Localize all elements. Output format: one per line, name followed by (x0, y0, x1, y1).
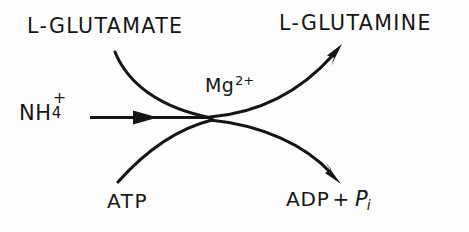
adp-text: ADP (286, 187, 330, 211)
adp-pi-product-arrowhead (325, 162, 341, 184)
magnesium-charge: 2+ (235, 73, 254, 88)
atp-substrate-curve (118, 120, 212, 182)
adp-pi-product-curve (210, 120, 331, 173)
cofactor-label-magnesium: Mg2+ (205, 74, 254, 95)
glutamine-product-arrowhead (327, 44, 342, 66)
product-label-glutamine: L-GLUTAMINE (279, 13, 432, 34)
substrate-label-ammonium: NH+4 (19, 99, 64, 124)
product-label-adp-phosphate: ADP+Pi (286, 189, 371, 212)
magnesium-element: Mg (205, 74, 234, 96)
nh4-reaction-arrowhead (133, 111, 158, 125)
adp-plus-sign: + (333, 187, 351, 211)
glutamate-substrate-curve (115, 52, 212, 118)
ammonium-charge-stack: +4 (52, 99, 64, 120)
inorganic-phosphate-subscript: i (367, 197, 372, 213)
inorganic-phosphate-symbol: P (355, 187, 368, 211)
reaction-diagram: L-GLUTAMATE L-GLUTAMINE NH+4 Mg2+ ATP AD… (0, 0, 469, 232)
substrate-label-atp: ATP (107, 191, 148, 211)
ammonium-subscript: 4 (52, 106, 62, 121)
substrate-label-glutamate: L-GLUTAMATE (27, 16, 183, 37)
ammonium-formula: NH (19, 101, 52, 125)
